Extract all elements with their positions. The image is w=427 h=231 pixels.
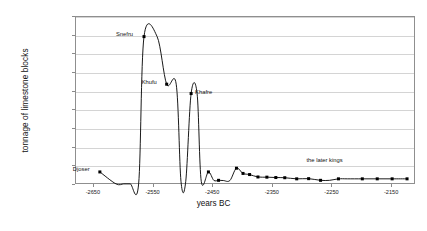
x-axis-tick-mark — [272, 184, 273, 187]
x-axis-tick-label: -2650 — [86, 189, 100, 195]
annotation-label: Djoser — [73, 167, 90, 173]
pyramid-tonnage-chart: tonnage of limestone blocks 0.001,000,00… — [0, 0, 427, 231]
x-axis-tick-mark — [93, 184, 94, 187]
annotation-label: the later kings — [307, 158, 343, 164]
x-axis-title: years BC — [0, 199, 427, 208]
x-axis-tick-mark — [153, 184, 154, 187]
annotation-label: Snefru — [116, 32, 133, 38]
annotation-label: Khafre — [195, 90, 212, 96]
x-axis-tick-label: -2350 — [265, 189, 279, 195]
x-axis-tick-labels: -2650-2550-2450-2350-2250-2150 — [0, 0, 427, 231]
x-axis-tick-label: -2450 — [205, 189, 219, 195]
annotation-label: Khufu — [142, 80, 157, 86]
x-axis-tick-mark — [212, 184, 213, 187]
x-axis-tick-label: -2250 — [324, 189, 338, 195]
x-axis-tick-mark — [391, 184, 392, 187]
x-axis-tick-mark — [331, 184, 332, 187]
x-axis-tick-label: -2550 — [145, 189, 159, 195]
x-axis-tick-label: -2150 — [384, 189, 398, 195]
